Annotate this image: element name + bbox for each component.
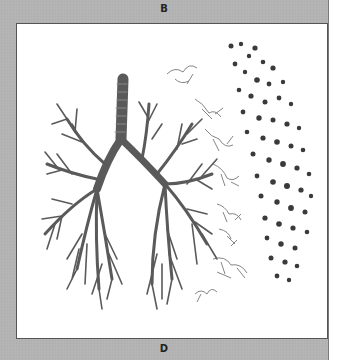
page-margin (328, 0, 342, 360)
panel-label-bottom: D (0, 343, 328, 354)
alveoli-clusters (229, 42, 314, 282)
panel-label-top: B (0, 3, 328, 14)
bronchial-tree-illustration (17, 24, 329, 340)
bronchial-tree-figure (16, 23, 328, 339)
figure-panel: B (0, 0, 328, 360)
